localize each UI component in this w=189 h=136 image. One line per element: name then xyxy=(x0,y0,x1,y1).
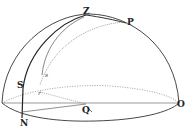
label-n: N xyxy=(20,118,28,128)
label-small-r: r xyxy=(38,89,42,96)
line-sq xyxy=(40,92,86,104)
horizon-front xyxy=(2,103,179,121)
arc-ps xyxy=(40,22,124,85)
horizon-back xyxy=(2,86,179,103)
meridian-zs xyxy=(22,15,86,118)
label-o: O xyxy=(177,99,185,109)
label-q: Q xyxy=(82,105,90,115)
label-s: S xyxy=(17,80,24,90)
label-z: Z xyxy=(83,6,90,16)
label-small-s: s xyxy=(45,71,48,78)
line-nq xyxy=(22,104,86,112)
label-p: P xyxy=(127,17,134,27)
dome-outline xyxy=(2,14,179,103)
hemisphere-diagram: Z P S N Q O s r xyxy=(0,0,189,136)
